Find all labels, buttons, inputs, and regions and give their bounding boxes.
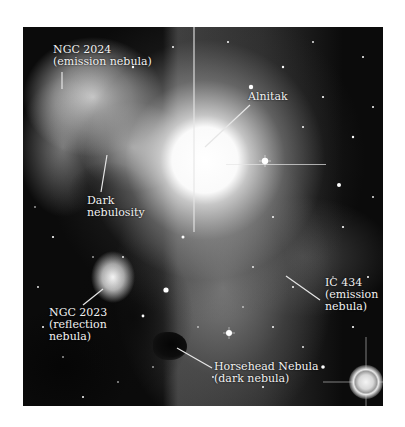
label-ngc2023-type2: nebula) [49,331,107,343]
label-alnitak: Alnitak [248,91,288,103]
leader-dark-nebulosity [101,155,107,192]
label-ngc2024-type: (emission nebula) [53,56,152,68]
label-ngc2023: NGC 2023 (reflection nebula) [49,307,107,343]
label-alnitak-name: Alnitak [248,91,288,103]
label-dark-nebulosity: Dark nebulosity [87,195,145,219]
label-ic434-type2: nebula) [325,301,378,313]
leader-ic434 [286,276,320,300]
label-horsehead: Horsehead Nebula (dark nebula) [214,361,319,385]
label-ngc2024: NGC 2024 (emission nebula) [53,44,152,68]
label-dark-nebulosity-line2: nebulosity [87,207,145,219]
leader-ngc2023 [83,289,103,305]
label-horsehead-type: (dark nebula) [214,373,319,385]
leader-alnitak [205,105,250,147]
leader-horsehead [177,348,212,368]
label-ic434: IC 434 (emission nebula) [325,277,378,313]
